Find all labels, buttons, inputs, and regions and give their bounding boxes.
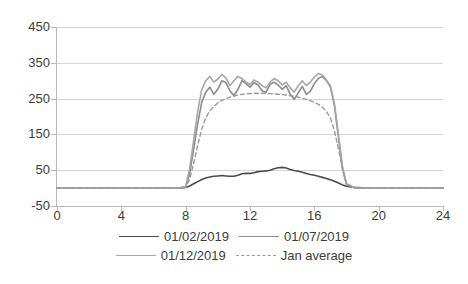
legend-label: 01/02/2019 [164, 229, 229, 244]
legend-line-swatch [239, 231, 279, 242]
legend-item[interactable]: 01/12/2019 [116, 248, 226, 263]
legend-item[interactable]: 01/02/2019 [119, 229, 229, 244]
legend-item[interactable]: 01/07/2019 [239, 229, 349, 244]
legend-label: 01/12/2019 [161, 248, 226, 263]
legend-label: 01/07/2019 [284, 229, 349, 244]
legend-line-swatch [236, 250, 276, 261]
series-line [57, 74, 443, 189]
legend-line-swatch [119, 231, 159, 242]
legend-row: 01/02/201901/07/2019 [119, 229, 349, 244]
legend-row: 01/12/2019Jan average [116, 248, 353, 263]
legend-item[interactable]: Jan average [236, 248, 353, 263]
legend-line-swatch [116, 250, 156, 261]
line-chart: -5050150250350450 04812162024 01/02/2019… [0, 0, 468, 284]
legend-label: Jan average [281, 248, 353, 263]
series-line [57, 167, 443, 188]
chart-legend: 01/02/201901/07/201901/12/2019Jan averag… [0, 229, 468, 263]
